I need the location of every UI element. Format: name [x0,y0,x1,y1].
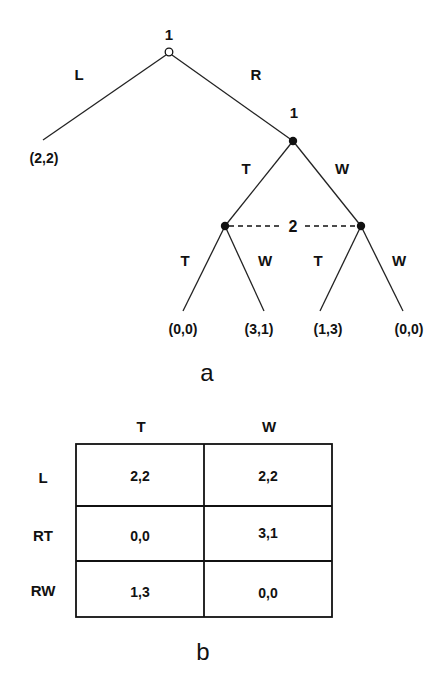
action-label-r-W: W [335,160,350,177]
action-label-p2a-W: W [258,252,273,269]
cell-RT-T: 0,0 [130,528,150,544]
cell-RW-W: 0,0 [258,585,278,601]
row-label-RW: RW [31,582,57,599]
action-label-p2b-W: W [392,252,407,269]
edge-p2b-T [320,226,361,311]
caption-b: b [196,638,209,665]
payoff-matrix: T W L RT RW 2,2 2,2 0,0 3,1 1,3 0,0 b [31,418,332,665]
player2-node-right-filled-circle [357,222,365,230]
game-tree: 1 1 2 L R T W T W T W (2,2) (0,0) (3,1) … [30,26,424,386]
info-set-player-label: 2 [289,218,298,235]
player1-node-filled-circle [289,137,297,145]
action-label-r-T: T [241,160,250,177]
payoff-RWT: (1,3) [314,321,343,337]
root-node-open-circle [165,48,173,56]
action-label-R: R [251,66,262,83]
column-header-T: T [136,418,145,435]
game-figure: 1 1 2 L R T W T W T W (2,2) (0,0) (3,1) … [0,0,448,685]
payoff-RTW: (3,1) [245,321,274,337]
row-label-L: L [38,469,47,486]
edge-r-T [225,141,293,226]
action-label-p2b-T: T [313,252,322,269]
payoff-L: (2,2) [30,150,59,166]
caption-a: a [200,359,214,386]
payoff-RWW: (0,0) [395,321,424,337]
action-label-L: L [74,66,83,83]
cell-RW-T: 1,3 [130,584,150,600]
player2-node-left-filled-circle [221,222,229,230]
action-label-p2a-T: T [180,252,189,269]
root-player-label: 1 [165,26,173,43]
edge-r-W [293,141,361,226]
cell-RT-W: 3,1 [258,525,278,541]
cell-L-W: 2,2 [258,468,278,484]
payoff-RTT: (0,0) [169,321,198,337]
cell-L-T: 2,2 [130,468,150,484]
column-header-W: W [262,418,277,435]
node-r-player-label: 1 [290,104,298,121]
edge-root-R [172,55,293,141]
edge-root-L [43,55,166,140]
row-label-RT: RT [33,527,53,544]
